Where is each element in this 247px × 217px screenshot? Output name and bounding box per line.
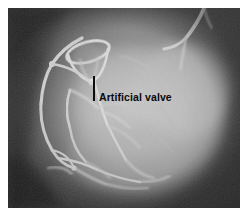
page-margin-top <box>0 0 247 8</box>
page-margin-left <box>0 0 8 217</box>
xray-render <box>8 8 240 208</box>
xray-image <box>8 8 240 208</box>
angiogram-figure: Artificial valve <box>0 0 247 217</box>
page-margin-bottom <box>0 208 247 217</box>
page-margin-right <box>240 0 247 217</box>
